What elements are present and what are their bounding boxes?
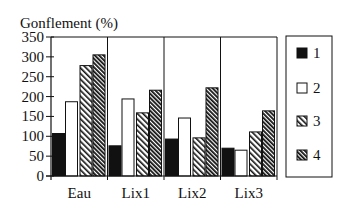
bar-series-3 <box>193 138 205 176</box>
x-axis: EauLix1Lix2Lix3 <box>68 185 263 201</box>
y-tick-label: 150 <box>22 108 45 124</box>
y-tick-label: 0 <box>37 168 45 184</box>
bar-series-2 <box>179 118 191 176</box>
bar-series-2 <box>66 102 78 176</box>
bar-series-4 <box>150 90 162 176</box>
bar-series-2 <box>122 99 134 176</box>
bar-chart: Gonflement (%) 050100150200250300350 Eau… <box>0 0 348 214</box>
legend-label: 4 <box>313 147 321 163</box>
bar-series-1 <box>166 139 178 176</box>
y-tick-label: 100 <box>22 128 45 144</box>
y-tick-label: 250 <box>22 69 45 85</box>
legend-box <box>286 36 332 177</box>
bar-group-lix1 <box>109 90 162 176</box>
y-axis: 050100150200250300350 <box>22 29 55 184</box>
legend-label: 2 <box>313 80 321 96</box>
legend-label: 1 <box>313 45 321 61</box>
bar-series-1 <box>109 146 121 176</box>
y-tick-label: 350 <box>22 29 45 45</box>
bar-group-lix3 <box>222 111 275 176</box>
legend-swatch <box>297 116 307 126</box>
y-tick-label: 200 <box>22 89 45 105</box>
x-tick-label: Lix2 <box>178 185 206 201</box>
x-tick-label: Lix1 <box>122 185 150 201</box>
legend-label: 3 <box>313 113 321 129</box>
bar-group-eau <box>53 55 106 176</box>
y-tick-label: 50 <box>29 148 44 164</box>
x-tick-label: Lix3 <box>235 185 263 201</box>
bar-series-4 <box>263 111 275 176</box>
bar-series-3 <box>137 113 149 176</box>
legend-swatch <box>297 83 307 93</box>
x-tick-label: Eau <box>68 185 92 201</box>
bar-series-4 <box>206 88 218 176</box>
bar-series-1 <box>53 134 65 176</box>
legend-swatch <box>297 150 307 160</box>
bar-series-4 <box>93 55 105 176</box>
bar-series-2 <box>235 150 247 176</box>
y-tick-label: 300 <box>22 49 45 65</box>
legend: 1234 <box>286 36 332 177</box>
legend-swatch <box>297 48 307 58</box>
bar-series-3 <box>80 66 92 176</box>
bar-series-1 <box>222 148 234 176</box>
bar-series-3 <box>250 132 262 176</box>
bar-group-lix2 <box>166 88 219 176</box>
